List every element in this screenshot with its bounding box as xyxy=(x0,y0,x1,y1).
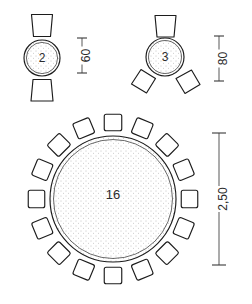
dimension-250: 2,50 xyxy=(212,133,230,265)
chair-shape xyxy=(176,70,200,94)
chair-shape xyxy=(155,241,179,265)
table-group-2-seats[interactable]: 2 xyxy=(24,15,60,102)
seat-count-label-16: 16 xyxy=(106,187,120,202)
chair-shape xyxy=(72,117,94,139)
chair-shape xyxy=(155,16,176,38)
chair-shape xyxy=(173,158,195,180)
dimension-label: 2,50 xyxy=(216,187,230,211)
dimension-label: 80 xyxy=(216,52,230,66)
dimension-80: 80 xyxy=(214,36,230,81)
chair-shape xyxy=(155,133,179,157)
chair-shape xyxy=(104,114,122,131)
dimension-60: 60 xyxy=(77,38,93,73)
chair-shape xyxy=(181,190,198,208)
seat-count-label-2: 2 xyxy=(39,51,46,65)
dimension-label: 60 xyxy=(79,49,93,63)
chair-shape xyxy=(32,15,53,37)
chair-shape xyxy=(132,70,156,94)
technical-drawing-canvas: 2 3 16 60802,50 xyxy=(0,0,252,304)
chair-shape xyxy=(72,259,94,281)
chair-shape xyxy=(28,190,45,208)
seating-plan-drawing: 2 3 16 60802,50 xyxy=(0,0,252,304)
chair-shape xyxy=(31,217,53,239)
chair-shape xyxy=(173,217,195,239)
chair-shape xyxy=(104,267,122,284)
chair-shape xyxy=(131,259,153,281)
seat-count-label-3: 3 xyxy=(162,50,169,64)
chair-shape xyxy=(31,158,53,180)
chair-shape xyxy=(47,241,71,265)
chair-shape xyxy=(131,117,153,139)
chair-shape xyxy=(31,80,53,102)
chair-shape xyxy=(47,133,71,157)
table-group-3-seats[interactable]: 3 xyxy=(132,16,201,94)
table-group-16-seats[interactable]: 16 xyxy=(28,114,198,284)
